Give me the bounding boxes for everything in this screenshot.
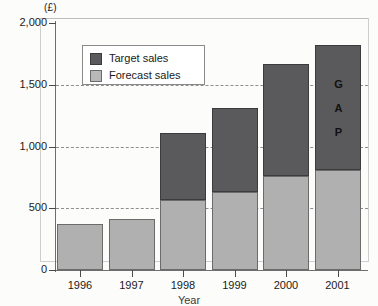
bar-2001: GAP	[315, 45, 361, 270]
x-axis-tick-label: 1998	[157, 279, 209, 291]
bar-segment-target	[160, 133, 206, 200]
y-axis-tick	[49, 85, 56, 86]
x-axis-tick	[235, 270, 236, 277]
bar-segment-forecast	[109, 219, 155, 270]
x-axis-tick	[80, 270, 81, 277]
gap-letter: G	[334, 79, 343, 90]
y-axis-tick	[49, 208, 56, 209]
y-axis-tick-label: 1,000	[1, 141, 47, 152]
bar-segment-target: GAP	[315, 45, 361, 170]
legend-item-forecast: Forecast sales	[90, 67, 204, 84]
y-axis-tick	[49, 147, 56, 148]
x-axis-tick	[183, 270, 184, 277]
x-axis-tick-label: 1997	[106, 279, 158, 291]
chart-figure: (£) 05001,0001,5002,000 1996199719981999…	[0, 0, 378, 306]
bar-1996	[57, 224, 103, 270]
bar-2000	[263, 64, 309, 270]
x-axis-title: Year	[0, 294, 378, 306]
legend-item-target: Target sales	[90, 50, 204, 67]
y-axis-tick-label: 2,000	[1, 17, 47, 28]
y-axis-tick-label: 0	[1, 264, 47, 275]
bar-segment-forecast	[212, 192, 258, 270]
forecast-swatch	[90, 70, 102, 82]
x-axis-line	[55, 270, 368, 271]
bar-segment-forecast	[315, 170, 361, 270]
gap-annotation: GAP	[316, 46, 362, 171]
y-axis-tick	[49, 270, 56, 271]
legend-label-target: Target sales	[109, 53, 168, 64]
bar-1997	[109, 219, 155, 270]
y-axis-tick-label: 1,500	[1, 79, 47, 90]
gap-letter: A	[335, 103, 343, 114]
legend-label-forecast: Forecast sales	[109, 70, 181, 81]
x-axis-tick-label: 2000	[260, 279, 312, 291]
target-swatch	[90, 53, 102, 65]
bar-segment-forecast	[160, 200, 206, 270]
gap-letter: P	[335, 127, 342, 138]
x-axis-tick	[132, 270, 133, 277]
bar-1999	[212, 108, 258, 270]
x-axis-tick	[286, 270, 287, 277]
bar-segment-target	[263, 64, 309, 176]
x-axis-tick	[338, 270, 339, 277]
y-axis-tick	[49, 23, 56, 24]
y-axis-unit-label: (£)	[44, 2, 57, 13]
x-axis-tick-label: 1996	[54, 279, 106, 291]
bar-segment-forecast	[57, 224, 103, 270]
y-axis-tick-label: 500	[1, 202, 47, 213]
x-axis-tick-label: 1999	[209, 279, 261, 291]
bar-segment-target	[212, 108, 258, 192]
chart-legend: Target sales Forecast sales	[82, 45, 205, 85]
bar-segment-forecast	[263, 176, 309, 270]
x-axis-tick-label: 2001	[312, 279, 364, 291]
bar-1998	[160, 133, 206, 270]
